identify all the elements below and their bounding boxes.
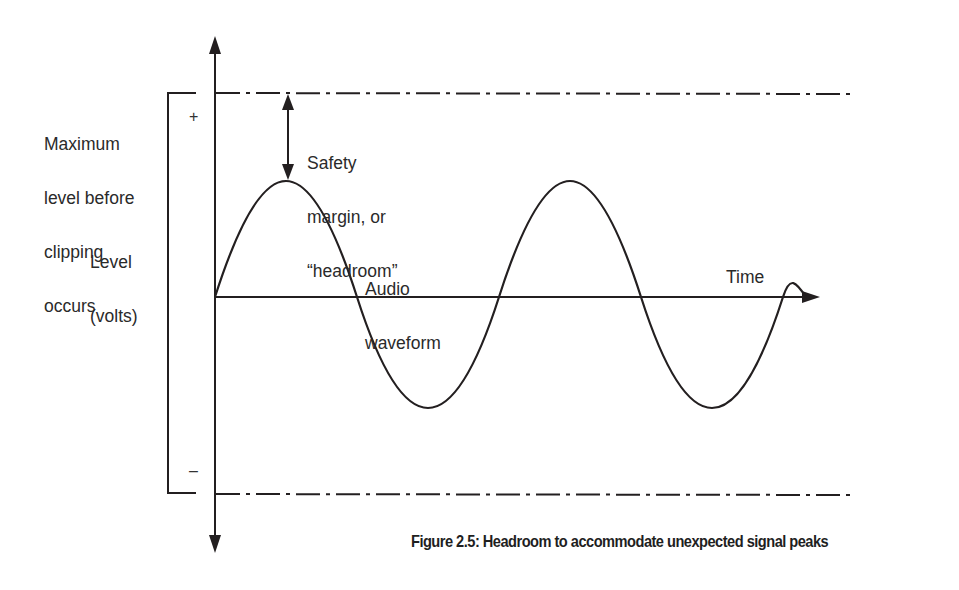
headroom-arrow-down-icon [282, 164, 294, 180]
safety-line-2: margin, or [307, 208, 397, 226]
level-axis-up-arrow-icon [209, 36, 221, 54]
level-volts-label: Level (volts) [90, 217, 138, 343]
audio-waveform-label: Audio waveform [365, 244, 441, 370]
time-label: Time [726, 268, 764, 286]
headroom-diagram [0, 0, 959, 590]
level-line-1: Level [90, 253, 138, 271]
level-line-2: (volts) [90, 307, 138, 325]
max-level-line-1: Maximum [44, 135, 134, 153]
plus-sign: + [189, 108, 198, 126]
safety-line-1: Safety [307, 154, 397, 172]
audio-line-2: waveform [365, 334, 441, 352]
max-negative-level-line [216, 494, 851, 495]
minus-sign: – [189, 462, 198, 480]
figure-caption: Figure 2.5: Headroom to accommodate unex… [411, 532, 828, 552]
audio-line-1: Audio [365, 280, 441, 298]
max-level-line-2: level before [44, 189, 134, 207]
level-axis-down-arrow-icon [209, 535, 221, 553]
max-positive-level-line [216, 93, 851, 94]
level-bracket [168, 93, 196, 493]
audio-waveform-curve [215, 181, 806, 408]
headroom-arrow-up-icon [282, 94, 294, 110]
